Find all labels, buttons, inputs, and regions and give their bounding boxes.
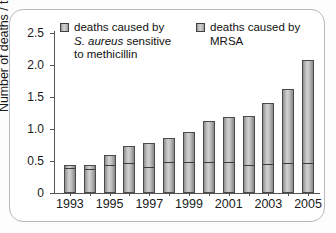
bar-segment-divider [144,167,154,168]
bar-segment-divider [283,163,293,164]
bar-group: 1997 [143,33,155,193]
bar-segment-divider [164,162,174,163]
bar-segment-divider [105,165,115,166]
stacked-bar [203,121,215,193]
x-axis-tick-label: 1999 [175,198,203,211]
bar-segment-divider [65,168,75,169]
x-axis-tick [249,193,250,196]
bar-group: 2001 [223,33,235,193]
bar-group: 2003 [262,33,274,193]
y-axis-tick-label: 1.0 [27,123,44,135]
bar-segment-divider [224,162,234,163]
y-axis-tick-label: 1.5 [27,91,44,103]
x-axis-tick [229,193,230,196]
x-axis-tick-label: 2003 [254,198,282,211]
bar-segment-divider [244,165,254,166]
x-axis-tick-label: 1993 [56,198,84,211]
stacked-bar [123,146,135,193]
bar-group [282,33,294,193]
x-axis-tick [149,193,150,196]
x-axis-tick [189,193,190,196]
stacked-bar [163,138,175,193]
stacked-bar [223,117,235,193]
y-axis-tick: 2.5 [50,33,54,34]
bar-group: 1993 [64,33,76,193]
plot-area: 00.51.01.52.02.5199319951997199920012003… [54,33,320,193]
y-axis-title: Number of deaths / thousands [0,0,11,112]
bar-segment-divider [85,169,95,170]
x-axis-tick [268,193,269,196]
x-axis-tick [110,193,111,196]
bar-group [203,33,215,193]
x-axis-tick [70,193,71,196]
bar-group [243,33,255,193]
x-axis-tick [209,193,210,196]
y-axis-tick: 2.0 [50,65,54,66]
y-axis-tick-label: 2.5 [27,27,44,39]
stacked-bar [302,60,314,193]
y-axis-tick: 0.5 [50,161,54,162]
stacked-bar [282,89,294,193]
legend-swatch-mrsa-icon [196,23,205,32]
bar-group: 2005 [302,33,314,193]
y-axis-tick: 0 [50,193,54,194]
x-axis-tick [90,193,91,196]
y-axis-tick-label: 0 [37,187,44,199]
stacked-bar [262,103,274,193]
y-axis-tick: 1.0 [50,129,54,130]
bar-segment-divider [184,162,194,163]
y-axis-tick-label: 2.0 [27,59,44,71]
bar-segment-divider [263,164,273,165]
stacked-bar [243,116,255,193]
legend-mrsa-line1: deaths caused by [210,21,300,33]
x-axis-tick [169,193,170,196]
bar-group [84,33,96,193]
x-axis-tick-label: 2001 [215,198,243,211]
chart-figure: deaths caused byS. aureus sensitiveto me… [0,0,336,233]
stacked-bar [104,155,116,193]
x-axis-tick [288,193,289,196]
bar-segment-divider [124,163,134,164]
x-axis-tick-label: 1997 [135,198,163,211]
bar-group [163,33,175,193]
y-axis-tick: 1.5 [50,97,54,98]
bar-segment-divider [204,162,214,163]
stacked-bar [64,165,76,193]
x-axis-tick [308,193,309,196]
stacked-bar [84,165,96,193]
stacked-bar [183,132,195,193]
bar-group: 1999 [183,33,195,193]
stacked-bar [143,143,155,193]
x-axis-line [54,193,320,194]
bar-segment-divider [303,163,313,164]
x-axis-tick [129,193,130,196]
legend-sensitive-line1: deaths caused by [74,21,164,33]
y-axis-tick-label: 0.5 [27,155,44,167]
x-axis-tick-label: 1995 [96,198,124,211]
bar-group: 1995 [104,33,116,193]
bar-group [123,33,135,193]
legend-swatch-sensitive-icon [60,23,69,32]
x-axis-tick-label: 2005 [294,198,322,211]
